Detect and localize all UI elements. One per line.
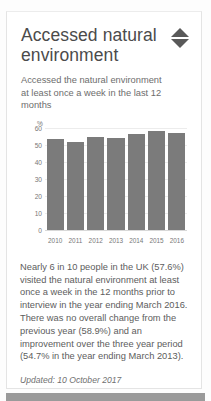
x-axis-line: [45, 230, 187, 231]
bar[interactable]: [67, 142, 84, 230]
y-axis-tick: 20: [35, 192, 42, 199]
chevron-down-icon: [171, 39, 189, 48]
x-axis-tick: 2011: [65, 234, 85, 248]
chart-bars: [45, 129, 187, 231]
y-axis-tick: 40: [35, 158, 42, 165]
x-axis-labels: 2010201120122013201420152016: [45, 234, 187, 248]
y-axis-tick: 60: [35, 124, 42, 131]
x-axis-tick: 2013: [106, 234, 126, 248]
bar[interactable]: [128, 134, 145, 231]
y-axis-tick: 30: [35, 175, 42, 182]
bar-chart: % 0102030405060 201020112012201320142015…: [17, 122, 191, 247]
updated-timestamp: Updated: 10 October 2017: [20, 375, 188, 386]
x-axis-tick: 2015: [146, 234, 166, 248]
x-axis-tick: 2012: [86, 234, 106, 248]
dashboard-card-page: Accessed natural environment Accessed th…: [0, 0, 211, 401]
bottom-scrollbar[interactable]: [6, 393, 205, 401]
bar[interactable]: [107, 138, 124, 231]
bar-column[interactable]: [146, 129, 166, 231]
card-header: Accessed natural environment: [7, 12, 201, 65]
bar-column[interactable]: [167, 129, 187, 231]
bar[interactable]: [148, 131, 165, 231]
bar-column[interactable]: [126, 129, 146, 231]
y-axis-tick: 0: [38, 226, 42, 233]
bar[interactable]: [87, 137, 104, 231]
chevron-up-icon: [171, 28, 189, 37]
x-axis-tick: 2010: [45, 234, 65, 248]
sort-updown-icon[interactable]: [171, 28, 189, 48]
bar-column[interactable]: [45, 129, 65, 231]
card-body-text: Nearly 6 in 10 people in the UK (57.6%) …: [20, 261, 188, 363]
x-axis-tick: 2016: [167, 234, 187, 248]
bar[interactable]: [168, 133, 185, 231]
indicator-card: Accessed natural environment Accessed th…: [6, 11, 202, 389]
bar-column[interactable]: [86, 129, 106, 231]
page-title: Accessed natural environment: [21, 26, 161, 65]
bar[interactable]: [47, 139, 64, 231]
y-axis-tick: 10: [35, 209, 42, 216]
y-axis-tick: 50: [35, 141, 42, 148]
x-axis-tick: 2014: [126, 234, 146, 248]
card-subtitle: Accessed the natural environment at leas…: [21, 74, 171, 112]
bar-column[interactable]: [106, 129, 126, 231]
chart-plot-area: 0102030405060: [45, 129, 187, 231]
bar-column[interactable]: [65, 129, 85, 231]
